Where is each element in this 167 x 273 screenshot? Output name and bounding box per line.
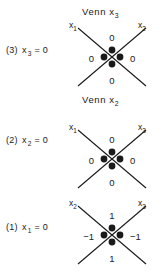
row-label-3-subscript: 3 [28, 50, 32, 57]
venn-diagram-figure: Venn x3 (3)x3 = 0 x1 x2 0 0 0 0 [0, 0, 167, 273]
row-label-2-variable: x [22, 135, 27, 145]
row-label-2-subscript: 2 [28, 140, 32, 147]
row-label-2: (2)x2 = 0 [6, 135, 48, 147]
value-1-bottom: 1 [101, 253, 123, 264]
value-3-top: 0 [101, 32, 123, 43]
venn-title-2-subscript: 2 [115, 100, 119, 107]
axis-label-1-top-left: x2 [69, 198, 77, 210]
axis-label-2-top-right-sub: 3 [142, 127, 146, 134]
axis-label-2-top-right: x3 [138, 122, 146, 134]
row-label-1-equals: = 0 [35, 222, 49, 232]
row-label-2-index: (2) [6, 135, 18, 145]
row-label-3-variable: x [22, 45, 27, 55]
venn-title-3-subscript: 3 [115, 12, 119, 19]
venn-cross-diagram-1: x2 x3 1 1 −1 −1 [68, 198, 164, 270]
venn-panel-3: Venn x3 (3)x3 = 0 x1 x2 0 0 0 0 [0, 0, 167, 95]
row-label-1-index: (1) [6, 222, 18, 232]
venn-title-2: Venn x2 [82, 94, 162, 107]
value-1-right: −1 [130, 231, 156, 242]
row-label-2-equals: = 0 [35, 135, 49, 145]
row-label-1: (1)x1 = 0 [6, 222, 48, 234]
value-3-bottom: 0 [101, 75, 123, 86]
value-3-right: 0 [130, 53, 150, 64]
venn-title-3-text: Venn x [82, 6, 115, 17]
venn-title-2-text: Venn x [82, 94, 115, 105]
venn-cross-diagram-3: x1 x2 0 0 0 0 [68, 20, 164, 92]
value-1-left: −1 [68, 231, 94, 242]
axis-label-3-top-left: x1 [69, 20, 77, 32]
axis-label-3-top-left-sub: 1 [73, 25, 77, 32]
row-label-1-subscript: 1 [28, 227, 32, 234]
value-2-right: 0 [130, 155, 150, 166]
axis-label-1-top-right: x3 [138, 198, 146, 210]
value-2-left: 0 [76, 155, 94, 166]
value-3-left: 0 [76, 53, 94, 64]
venn-title-3: Venn x3 [82, 6, 162, 19]
axis-label-2-top-left: x1 [69, 122, 77, 134]
axis-label-1-top-left-sub: 2 [73, 203, 77, 210]
axis-label-3-top-right: x2 [138, 20, 146, 32]
row-label-3-equals: = 0 [35, 45, 49, 55]
axis-label-3-top-right-sub: 2 [142, 25, 146, 32]
row-label-1-variable: x [22, 222, 27, 232]
row-label-3-index: (3) [6, 45, 18, 55]
row-label-3: (3)x3 = 0 [6, 45, 48, 57]
axis-label-1-top-right-sub: 3 [142, 203, 146, 210]
axis-label-2-top-left-sub: 1 [73, 127, 77, 134]
value-1-top: 1 [101, 210, 123, 221]
value-2-top: 0 [101, 134, 123, 145]
